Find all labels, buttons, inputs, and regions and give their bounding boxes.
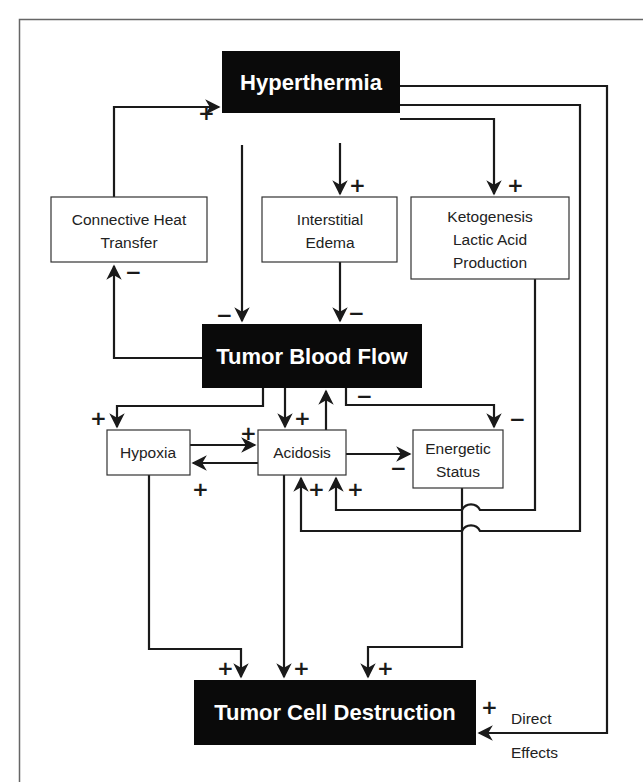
- edge-hyperthermia-ketogenesis: [400, 119, 494, 194]
- ketogenesis-label-line3: Production: [453, 254, 527, 271]
- node-energetic-status: Energetic Status: [413, 430, 503, 488]
- node-tumor-cell-destruction: Tumor Cell Destruction: [194, 680, 476, 745]
- node-interstitial-edema: Interstitial Edema: [262, 197, 397, 262]
- energetic-label-line2: Status: [436, 463, 480, 480]
- node-ketogenesis: Ketogenesis Lactic Acid Production: [411, 197, 569, 279]
- sign-hyperthermia-ketogenesis: +: [507, 173, 524, 197]
- sign-bloodflow-hypoxia: +: [90, 406, 107, 430]
- sign-hypoxia-destruction: +: [217, 656, 234, 680]
- sign-hypoxia-acidosis: +: [240, 421, 257, 445]
- sign-hyperthermia-bloodflow: −: [216, 303, 233, 327]
- energetic-label-line1: Energetic: [425, 440, 491, 457]
- sign-energetic-destruction: +: [377, 656, 394, 680]
- edge-hypoxia-destruction: [149, 475, 241, 677]
- interstitial-label-line2: Edema: [305, 234, 354, 251]
- node-hyperthermia: Hyperthermia: [222, 51, 400, 113]
- destruction-label: Tumor Cell Destruction: [214, 700, 456, 725]
- diagram-canvas: Hyperthermia Connective Heat Transfer In…: [0, 0, 643, 782]
- node-tumor-blood-flow: Tumor Blood Flow: [202, 324, 422, 388]
- sign-bloodflow-acidosis: +: [294, 406, 311, 430]
- node-connective-heat-transfer: Connective Heat Transfer: [51, 197, 207, 262]
- sign-acidosis-destruction: +: [293, 656, 310, 680]
- sign-acidosis-hypoxia: +: [192, 477, 209, 501]
- ketogenesis-label-line2: Lactic Acid: [453, 231, 527, 248]
- sign-hyperthermia-energetic: −: [509, 407, 526, 431]
- sign-hyperthermia-acidosis: +: [308, 477, 325, 501]
- blood-flow-label: Tumor Blood Flow: [216, 344, 408, 369]
- edge-energetic-destruction: [368, 488, 462, 677]
- sign-direct-effects: +: [481, 695, 498, 719]
- sign-bloodflow-connective: −: [125, 260, 142, 284]
- ketogenesis-label-line1: Ketogenesis: [447, 208, 533, 225]
- hyperthermia-label: Hyperthermia: [240, 70, 383, 95]
- connective-label-line1: Connective Heat: [72, 211, 187, 228]
- sign-acidosis-energetic: −: [390, 456, 407, 480]
- connective-label-line2: Transfer: [100, 234, 157, 251]
- node-acidosis: Acidosis: [258, 430, 346, 475]
- hypoxia-label: Hypoxia: [120, 444, 176, 461]
- node-hypoxia: Hypoxia: [107, 430, 190, 475]
- direct-effects-label-line1: Direct: [511, 710, 552, 727]
- sign-ketogenesis-acidosis: +: [347, 477, 364, 501]
- sign-interstitial-bloodflow: −: [348, 301, 365, 325]
- interstitial-label-line1: Interstitial: [297, 211, 363, 228]
- direct-effects-label-line2: Effects: [511, 744, 558, 761]
- edge-hyperthermia-destruction: [400, 86, 607, 733]
- acidosis-label: Acidosis: [273, 444, 331, 461]
- sign-hyperthermia-interstitial: +: [349, 173, 366, 197]
- sign-connective-hyperthermia: +: [198, 101, 215, 125]
- sign-bloodflow-energetic: −: [356, 384, 373, 408]
